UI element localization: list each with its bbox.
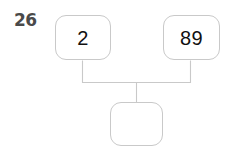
connector-bracket xyxy=(83,61,191,83)
number-bond-part-right[interactable]: 89 xyxy=(163,15,220,60)
number-bond-part-right-value: 89 xyxy=(180,28,203,48)
problem-number-label: 26 xyxy=(14,12,37,29)
number-bond-part-left-value: 2 xyxy=(77,28,89,48)
number-bond-part-left[interactable]: 2 xyxy=(55,15,111,60)
worksheet-canvas: 26 2 89 xyxy=(0,0,233,153)
number-bond-whole-answer-box[interactable] xyxy=(110,102,163,146)
